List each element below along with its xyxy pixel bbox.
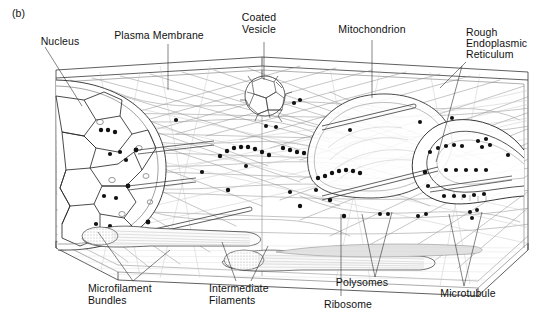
label-coated-vesicle-line1: Coated xyxy=(242,12,276,24)
label-plasma-membrane: Plasma Membrane xyxy=(114,30,204,42)
label-microfilament-bundles-line2: Bundles xyxy=(88,295,127,307)
panel-label: (b) xyxy=(12,8,25,20)
cell-diagram-svg xyxy=(0,0,543,324)
label-polysomes: Polysomes xyxy=(336,277,388,289)
label-microtubule: Microtubule xyxy=(440,288,495,300)
label-rough-er-line3: Reticulum xyxy=(466,49,514,61)
label-nucleus: Nucleus xyxy=(41,36,80,48)
label-coated-vesicle-line2: Vesicle xyxy=(242,24,276,36)
cell-cytoskeleton-figure: (b) Nucleus Plasma Membrane Coated Vesic… xyxy=(0,0,543,324)
label-microfilament-bundles-line1: Microfilament xyxy=(88,283,152,295)
label-ribosome: Ribosome xyxy=(324,299,372,311)
label-intermediate-filaments-line1: Intermediate xyxy=(209,283,269,295)
label-intermediate-filaments-line2: Filaments xyxy=(209,295,255,307)
label-mitochondrion: Mitochondrion xyxy=(338,24,405,36)
